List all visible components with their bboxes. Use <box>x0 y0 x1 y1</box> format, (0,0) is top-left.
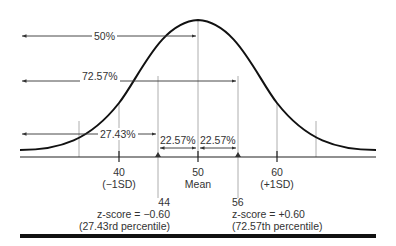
area-label-2257-right: 22.57% <box>200 134 236 146</box>
marker-label-44: 44 z-score = −0.60 (27.43rd percentile) <box>60 196 170 232</box>
tick-label-50: 50 Mean <box>178 166 218 190</box>
area-label-50: 50% <box>92 30 117 42</box>
bottom-rule <box>20 234 376 238</box>
tick-label-40: 40 (−1SD) <box>99 166 139 190</box>
area-label-7257: 72.57% <box>80 70 120 82</box>
marker-label-56: 56 z-score = +0.60 (72.57th percentile) <box>232 196 352 232</box>
tick-label-60: 60 (+1SD) <box>257 166 297 190</box>
area-label-2257-left: 22.57% <box>160 134 196 146</box>
area-label-2743: 27.43% <box>98 128 138 140</box>
